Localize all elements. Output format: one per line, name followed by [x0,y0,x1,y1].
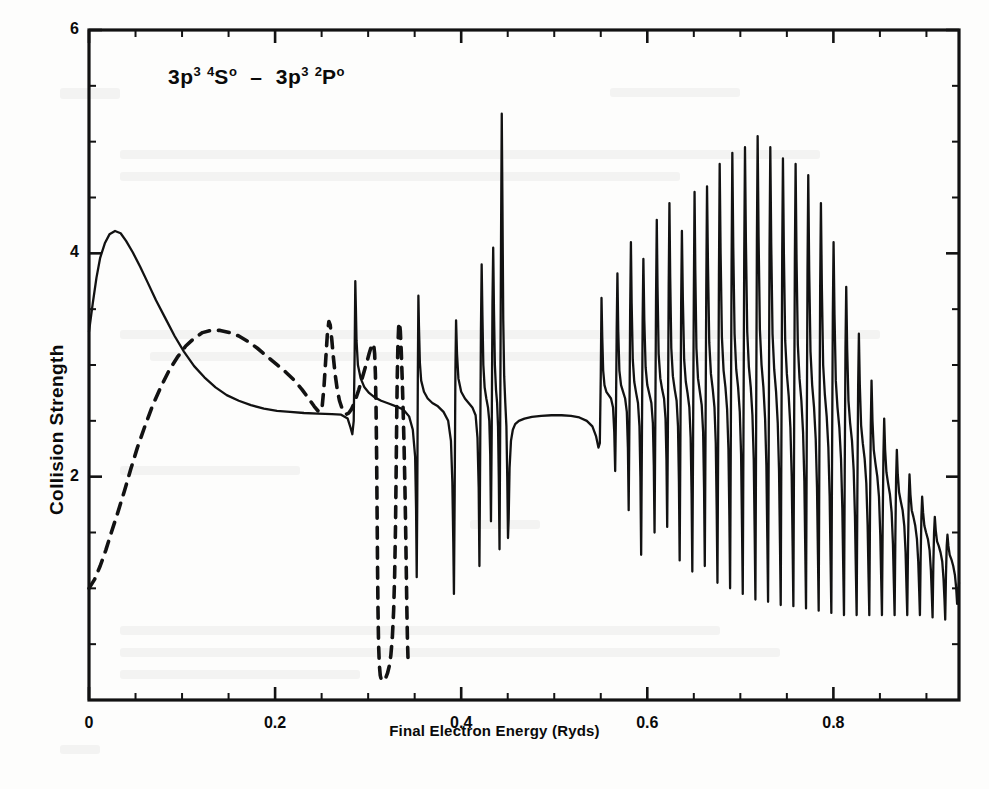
solid-curve [89,114,959,620]
y-axis-title: Collision Strength [46,344,68,515]
upper-term: 2Po [315,65,345,88]
y-tick-label: 6 [39,20,79,38]
axis-ticks [89,30,959,700]
lower-config: 3p3 [168,65,201,88]
upper-config: 3p3 [276,65,309,88]
transition-annotation: 3p3 4So – 3p3 2Po [168,64,345,89]
plot-frame [89,30,959,700]
transition-dash: – [243,65,269,88]
collision-strength-plot [0,0,989,789]
x-tick-label: 0.4 [431,714,491,732]
x-tick-label: 0 [59,714,119,732]
y-tick-label: 2 [39,467,79,485]
lower-term: 4So [207,65,237,88]
y-tick-label: 4 [39,243,79,261]
x-tick-label: 0.6 [617,714,677,732]
x-tick-label: 0.8 [803,714,863,732]
x-tick-label: 0.2 [245,714,305,732]
figure-container: 3p3 4So – 3p3 2Po Collision Strength Fin… [0,0,989,789]
